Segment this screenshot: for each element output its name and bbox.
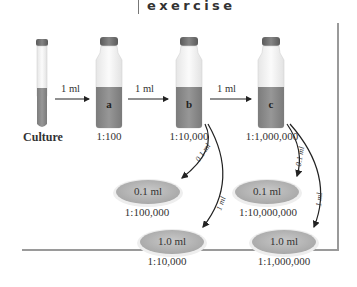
bottle-c [258,37,284,128]
plate-4-volume: 1.0 ml [270,235,298,247]
culture-label: Culture [23,130,63,145]
plate-2-dilution: 1:10,000 [148,255,187,267]
bottle-a-dilution: 1:100 [96,130,121,142]
bottle-c-letter: c [269,98,274,110]
bottle-b-letter: b [186,98,192,110]
bottle-a-letter: a [106,98,112,110]
plate-4-dilution: 1:1,000,000 [258,255,311,267]
transfer-label-1: 1 ml [61,83,80,94]
bottle-a [96,37,122,128]
bottle-b-dilution: 1:10,000 [170,130,209,142]
plating-label-c-1ml: 1 ml [314,192,324,207]
bottle-b [176,37,202,128]
plate-1-dilution: 1:100,000 [125,206,169,218]
bottle-c-dilution: 1:1,000,000 [246,130,299,142]
transfer-label-3: 1 ml [217,83,236,94]
plate-3-volume: 0.1 ml [253,185,281,197]
transfer-label-2: 1 ml [135,83,154,94]
plate-2-volume: 1.0 ml [158,235,186,247]
plate-1-volume: 0.1 ml [134,185,162,197]
plate-3-dilution: 1:10,000,000 [239,206,297,218]
culture-tube [36,39,48,127]
